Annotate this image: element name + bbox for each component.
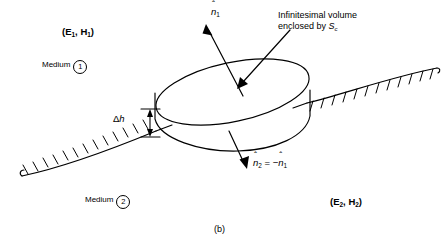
medium1-E-subscript: 1 bbox=[72, 31, 76, 38]
hat-accent-icon-3: ˆ bbox=[279, 150, 282, 161]
interface-curve-left bbox=[22, 131, 156, 176]
h-symbol: h bbox=[119, 113, 124, 124]
callout-note-line2: enclosed by Sc bbox=[278, 21, 357, 32]
medium2-number-badge: 2 bbox=[116, 195, 130, 209]
medium1-name-text: Medium bbox=[42, 60, 70, 69]
medium2-H-subscript: 2 bbox=[355, 201, 359, 208]
hat-accent-icon-2: ˆ bbox=[254, 150, 257, 161]
equals-sign: = bbox=[262, 157, 273, 168]
surface-symbol: S bbox=[329, 21, 335, 31]
pillbox-top-face bbox=[150, 47, 315, 137]
medium2-label: Medium2 bbox=[85, 195, 130, 209]
interface-curve-left-endhook bbox=[20, 170, 24, 176]
n-hat-1-glyph-rhs: ˆn bbox=[278, 157, 283, 168]
interface-curve-right bbox=[307, 68, 437, 103]
medium1-fields-text: (E1, H1) bbox=[62, 26, 94, 37]
interface-hatching-left bbox=[23, 120, 148, 174]
medium1-H-subscript: 1 bbox=[87, 31, 91, 38]
callout-leader-shaft bbox=[243, 30, 290, 82]
figure-container: (E1, H1) Medium1 Medium2 (E2, H2) ˆn1 ˆn… bbox=[0, 0, 447, 246]
interface-curve-right-endhook bbox=[437, 68, 440, 73]
interface-stub-right bbox=[293, 103, 307, 108]
normal-down-label: ˆn2 = −ˆn1 bbox=[253, 157, 287, 168]
surface-subscript: c bbox=[335, 25, 338, 32]
medium2-name-text: Medium bbox=[85, 195, 113, 204]
medium1-number-badge: 1 bbox=[73, 60, 87, 74]
medium2-E-subscript: 2 bbox=[340, 201, 344, 208]
pillbox-side-wall bbox=[155, 90, 310, 151]
medium1-fields-label: (E1, H1) bbox=[62, 26, 94, 37]
medium2-fields-text: (E2, H2) bbox=[330, 196, 362, 207]
figure-caption: (b) bbox=[214, 224, 225, 235]
n-hat-2-subscript: 2 bbox=[258, 162, 262, 169]
thickness-arrow-head-up bbox=[147, 109, 153, 117]
hat-accent-icon: ˆ bbox=[212, 0, 215, 10]
callout-note-line1: Infinitesimal volume bbox=[278, 10, 357, 21]
n-hat-1-subscript-rhs: 1 bbox=[284, 162, 288, 169]
thickness-label: Δh bbox=[113, 113, 125, 124]
interface-hatching-right bbox=[310, 69, 433, 111]
note-prefix-text: enclosed by bbox=[278, 21, 329, 31]
medium2-fields-label: (E2, H2) bbox=[330, 196, 362, 207]
callout-note: Infinitesimal volume enclosed by Sc bbox=[278, 10, 357, 31]
normal-up-label: ˆn1 bbox=[211, 6, 220, 17]
n-hat-1-subscript: 1 bbox=[216, 11, 220, 18]
medium1-label: Medium1 bbox=[42, 60, 87, 74]
normal-up-arrow-head bbox=[203, 24, 213, 36]
normal-down-arrow-shaft bbox=[229, 131, 243, 161]
